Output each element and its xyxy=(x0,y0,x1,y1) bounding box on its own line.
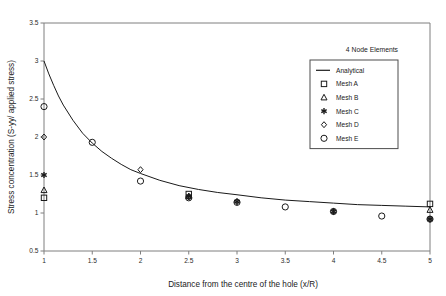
legend-label-mesh-b: Mesh B xyxy=(336,94,359,101)
x-tick-label: 3.5 xyxy=(281,257,290,264)
chart-figure: 11.522.533.544.55 0.511.522.533.5 Distan… xyxy=(0,0,446,296)
x-tick-label: 1.5 xyxy=(88,257,97,264)
x-tick-label: 2 xyxy=(139,257,143,264)
y-tick-label: 1.5 xyxy=(29,171,38,178)
stress-concentration-chart: 11.522.533.544.55 0.511.522.533.5 Distan… xyxy=(0,0,446,296)
legend-label-mesh-c: Mesh C xyxy=(336,108,359,115)
y-axis-title: Stress concentration (S-yy/ applied stre… xyxy=(7,60,16,214)
x-tick-label: 4.5 xyxy=(377,257,386,264)
y-tick-label: 2 xyxy=(35,133,39,140)
y-tick-label: 2.5 xyxy=(29,95,38,102)
legend-label-mesh-a: Mesh A xyxy=(336,80,359,87)
legend: AnalyticalMesh AMesh BMesh CMesh DMesh E xyxy=(310,60,398,149)
y-tick-label: 3 xyxy=(35,57,39,64)
x-tick-label: 4 xyxy=(332,257,336,264)
x-tick-label: 2.5 xyxy=(184,257,193,264)
legend-label-mesh-d: Mesh D xyxy=(336,121,359,128)
legend-label-mesh-e: Mesh E xyxy=(336,135,359,142)
x-tick-label: 3 xyxy=(235,257,239,264)
chart-annotation: 4 Node Elements xyxy=(346,46,399,53)
y-tick-label: 3.5 xyxy=(29,19,38,26)
y-tick-label: 0.5 xyxy=(29,247,38,254)
legend-label-analytical: Analytical xyxy=(336,67,365,75)
x-tick-label: 1 xyxy=(42,257,46,264)
y-tick-label: 1 xyxy=(35,209,39,216)
x-tick-label: 5 xyxy=(428,257,432,264)
x-axis-title: Distance from the centre of the hole (x/… xyxy=(168,280,318,289)
